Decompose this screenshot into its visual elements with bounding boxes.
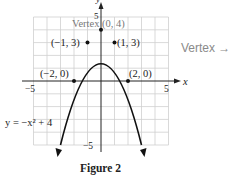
x-axis-label: x (183, 77, 188, 88)
y-axis-label: y (96, 0, 100, 4)
tick-y-pos5: 5 (94, 12, 99, 21)
point-1-3 (113, 41, 117, 45)
point-1-3-label: (1, 3) (117, 38, 140, 49)
tick-y-neg5: −5 (83, 142, 93, 152)
point-2-0-label: (2, 0) (129, 69, 152, 80)
point-neg2-0 (72, 79, 76, 83)
point-neg1-3-label: (−1, 3) (51, 38, 80, 49)
equation-label: y = −x² + 4 (5, 118, 52, 129)
curve-arrow-right-icon (140, 148, 147, 157)
tick-x-neg5: −5 (25, 85, 35, 95)
curve-arrow-left-icon (56, 148, 63, 157)
x-axis-arrow-icon (174, 79, 181, 84)
tick-x-pos5: 5 (164, 85, 169, 95)
point-2-0 (126, 79, 130, 83)
vertex-side-note: Vertex → (181, 41, 230, 55)
point-neg1-3 (86, 41, 90, 45)
point-neg2-0-label: (−2, 0) (40, 69, 69, 80)
figure-caption: Figure 2 (80, 162, 121, 174)
